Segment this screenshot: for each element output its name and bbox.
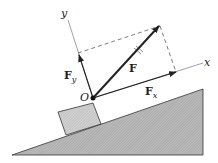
origin-point (91, 96, 96, 101)
force-x-label: Fx (145, 85, 158, 100)
force-y-label: Fy (64, 69, 77, 84)
force-diagram: O y x F Fy Fx (0, 0, 218, 163)
force-label: F (129, 62, 137, 75)
y-axis-label: y (60, 7, 68, 20)
dashed-line-right (160, 26, 176, 72)
incline-plane (12, 89, 203, 155)
origin-label: O (80, 91, 89, 104)
x-axis-label: x (204, 56, 211, 69)
diagram-canvas: O y x F Fy Fx (0, 0, 218, 163)
